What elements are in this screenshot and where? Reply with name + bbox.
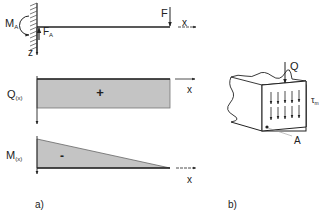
element-cut-edge [228,77,237,122]
moment-area [37,139,170,168]
shear-sign: + [96,85,104,100]
shear-stress-label: τm [311,95,319,106]
moment-label: MA [5,17,18,30]
moment-diagram-label: M(x) [6,149,22,162]
point-a-label: A [294,135,301,146]
caption-a: a) [35,199,44,210]
shear-force-label: Q [290,60,299,72]
beam-element: Q τm A [228,60,319,146]
wall-hatching [30,3,37,50]
moment-arrow [20,16,30,35]
x-axis-label: x [182,17,187,28]
shear-x-label: x [187,84,192,95]
moment-x-label: x [187,174,192,185]
shear-force-diagram: x + Q(x) [7,76,195,124]
beam-diagram: F x z FA MA [5,3,196,58]
bending-moment-diagram: x - M(x) [6,136,196,185]
element-bottom-edge [231,122,262,131]
beam-figure: F x z FA MA x + Q(x) x - M(x) a) [0,0,324,216]
shear-label: Q(x) [7,88,23,101]
moment-sign: - [60,149,64,163]
load-label: F [161,7,168,19]
caption-b: b) [228,199,237,210]
z-axis-label: z [28,47,33,58]
